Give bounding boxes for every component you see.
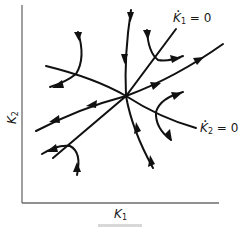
arrow-left-icon — [52, 80, 64, 88]
x-axis-sub: 1 — [122, 213, 127, 222]
k1-dot-equals: = 0 — [186, 11, 211, 25]
trajectory-lower-left — [42, 146, 78, 175]
k2-dot-equals: = 0 — [213, 121, 238, 135]
k2-nullcline-label: K2 = 0 — [200, 122, 238, 136]
k2-dot-symbol: K — [200, 122, 208, 134]
arrow-left-icon — [86, 100, 97, 108]
arrow-up-icon — [148, 155, 155, 167]
k1-nullcline — [53, 29, 176, 158]
arrow-right-icon — [150, 82, 161, 90]
x-axis-var: K — [114, 207, 122, 221]
arrow-up-icon — [73, 162, 81, 172]
y-axis-var: K — [5, 116, 19, 124]
arrow-left-icon — [46, 144, 58, 152]
y-axis-sub: 2 — [11, 111, 20, 116]
arrow-left-icon — [49, 115, 60, 123]
stable-arm-top — [126, 10, 131, 96]
k1-dot-symbol: K — [173, 12, 181, 24]
unstable-arm-ne — [126, 44, 223, 96]
arrow-right-icon — [171, 92, 182, 100]
k1-nullcline-label: K1 = 0 — [173, 12, 211, 26]
trajectory-upper-left — [50, 32, 82, 87]
unstable-arm-sw — [36, 96, 126, 131]
arrow-right-icon — [170, 55, 181, 63]
stable-arm-bottom — [126, 96, 153, 168]
figure-caption-cutoff — [98, 224, 142, 227]
arrow-down-icon — [127, 12, 134, 22]
arrow-up-icon — [134, 122, 141, 134]
y-axis-label: K2 — [6, 111, 20, 124]
x-axis-label: K1 — [114, 208, 127, 222]
